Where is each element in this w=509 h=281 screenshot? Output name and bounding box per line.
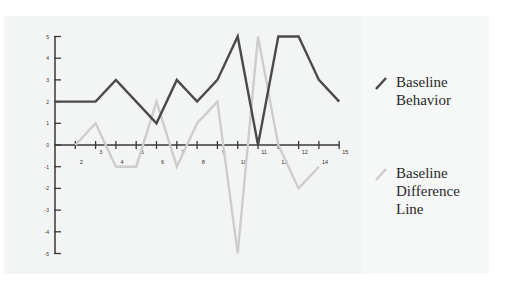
x-tick-label: 3 [99,149,102,155]
y-tick-label: -1 [45,164,50,170]
legend-item-baseline-difference-line: Baseline Difference Line [374,164,460,218]
y-tick-label: -5 [45,251,50,257]
x-tick-label: 6 [161,159,164,165]
y-tick-label: -4 [45,229,50,235]
y-tick-label: -2 [45,185,50,191]
legend-label-baseline-difference-line: Baseline Difference Line [396,164,460,218]
y-tick-label: 5 [46,34,49,40]
y-tick-label: 0 [46,142,49,148]
x-tick-label: 8 [202,159,205,165]
y-tick-label: 2 [46,99,49,105]
y-tick-label: 3 [46,77,49,83]
x-tick-label: 4 [120,159,123,165]
y-tick-label: -3 [45,207,50,213]
legend-item-baseline-behavior: Baseline Behavior [374,73,451,109]
axes: 543210-1-2-3-4-523456789101113121415 [45,34,349,257]
legend-swatch-light-line-icon [374,166,388,182]
x-tick-label: 14 [322,159,328,165]
x-tick-label: 11 [261,149,267,155]
y-tick-label: 4 [46,55,49,61]
y-tick-label: 1 [46,120,49,126]
x-tick-label: 15 [342,149,348,155]
legend-swatch-dark-line-icon [374,75,388,91]
x-tick-label: 12 [302,149,308,155]
line-chart: 543210-1-2-3-4-523456789101113121415 [0,0,509,281]
legend-label-baseline-behavior: Baseline Behavior [396,73,451,109]
x-tick-label: 2 [80,159,83,165]
